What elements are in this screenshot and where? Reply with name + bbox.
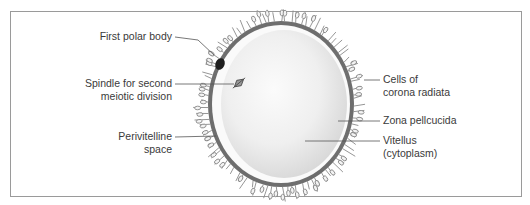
label-first-polar-body: First polar body: [100, 30, 172, 43]
ovum-illustration: [0, 0, 530, 205]
label-corona-radiata: Cells of corona radiata: [383, 73, 450, 99]
label-vitellus: Vitellus (cytoplasm): [383, 134, 437, 160]
label-zona-pellucida: Zona pellcucida: [383, 114, 457, 127]
vitellus: [221, 30, 347, 178]
label-perivitelline-space: Perivitelline space: [118, 130, 172, 156]
label-spindle: Spindle for second meiotic division: [85, 77, 172, 103]
